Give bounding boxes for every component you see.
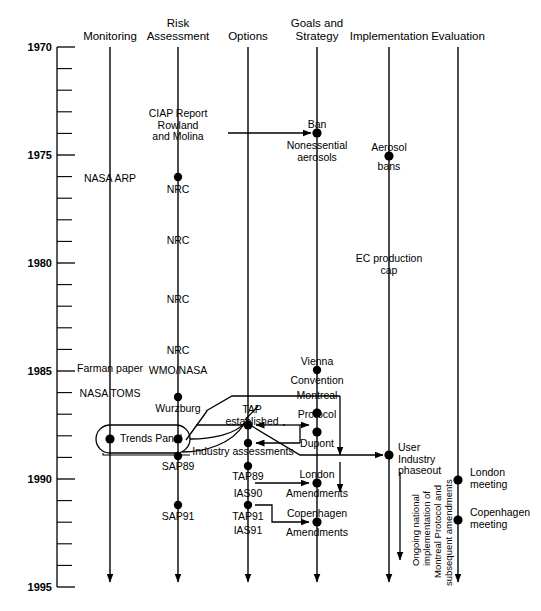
year-1970-text: 1970	[28, 41, 52, 53]
tap-line2: established	[225, 416, 278, 428]
year-label-1985: 1985	[4, 365, 52, 377]
diagram-canvas	[0, 0, 541, 611]
year-label-1970: 1970	[4, 41, 52, 53]
annotation-ongoing-line1: Ongoing national	[410, 494, 421, 566]
vienna-line1: Vienna	[290, 356, 343, 368]
nasa-arp-text: NASA ARP	[84, 172, 136, 184]
event-label-wmo-nasa: WMO/NASA	[149, 365, 207, 377]
column-header-goals-line1: Goals and	[291, 17, 343, 30]
montreal-line2: Protocol	[297, 409, 338, 421]
user-line3: phaseout	[398, 465, 441, 477]
event-label-wurzburg: Wurzburg	[155, 403, 200, 415]
event-label-farman-paper: Farman paper	[77, 363, 143, 375]
tap89-text: TAP89	[232, 470, 263, 482]
event-label-ciap-report: CIAP Report Rowland and Molina	[149, 108, 208, 143]
nonessential-line2: aerosols	[287, 152, 348, 164]
event-label-dupont: Dupont	[300, 438, 334, 450]
event-label-industry-assessments: Industry assessments	[192, 446, 294, 458]
montreal-line1: Montreal	[297, 390, 338, 402]
ec-line2: cap	[356, 265, 423, 277]
column-header-options: Options	[228, 30, 268, 43]
event-label-aerosol-bans: Aerosol bans	[371, 142, 407, 172]
column-header-implementation-label: Implementation	[350, 30, 429, 42]
london-am-line2: Amendments	[286, 488, 348, 500]
timeline-figure: Monitoring Risk Assessment Options Goals…	[0, 0, 541, 611]
event-label-nrc-3: NRC	[167, 294, 190, 306]
event-label-montreal-protocol: Montreal Protocol	[297, 390, 338, 420]
tap91-text: TAP91	[232, 510, 263, 522]
aerosol-line2: bans	[371, 161, 407, 173]
event-label-sap89: SAP89	[162, 461, 195, 473]
column-header-implementation: Implementation	[350, 30, 429, 43]
nrc-1-text: NRC	[167, 183, 190, 195]
year-1990-text: 1990	[28, 473, 52, 485]
trends-panel-text: Trends Panel	[120, 432, 182, 444]
event-label-vienna-convention: Vienna Convention	[290, 356, 343, 386]
year-label-1975: 1975	[4, 149, 52, 161]
year-label-1990: 1990	[4, 473, 52, 485]
nrc-4-text: NRC	[167, 344, 190, 356]
year-1975-text: 1975	[28, 149, 52, 161]
dot-sap89	[174, 452, 182, 460]
event-label-nrc-1: NRC	[167, 184, 190, 196]
column-header-options-label: Options	[228, 30, 268, 42]
wurzburg-text: Wurzburg	[155, 402, 200, 414]
year-label-1995: 1995	[4, 581, 52, 593]
copen-mtg-line1: Copenhagen	[470, 507, 530, 519]
vienna-line2: Convention	[290, 375, 343, 387]
dot-tap89	[244, 462, 252, 470]
aerosol-line1: Aerosol	[371, 142, 407, 154]
event-label-ias91: IAS91	[234, 525, 263, 537]
event-label-copenhagen-amendments: Copenhagen Amendments	[286, 508, 348, 538]
ciap-line1: CIAP Report	[149, 108, 208, 120]
wmo-nasa-text: WMO/NASA	[149, 364, 207, 376]
tap-line1: TAP	[225, 404, 278, 416]
event-label-nonessential-aerosols: Nonessential aerosols	[287, 140, 348, 163]
copen-mtg-line2: meeting	[470, 519, 530, 531]
column-header-evaluation-label: Evaluation	[431, 30, 485, 42]
ec-line1: EC production	[356, 253, 423, 265]
ias90-text: IAS90	[234, 487, 263, 499]
dot-nrc74	[174, 173, 182, 181]
london-am-line1: London	[286, 469, 348, 481]
event-label-ec-production-cap: EC production cap	[356, 253, 423, 276]
event-label-nasa-arp: NASA ARP	[84, 173, 136, 185]
event-label-trends-panel: Trends Panel	[120, 433, 182, 445]
ias91-text: IAS91	[234, 524, 263, 536]
nasa-toms-text: NASA TOMS	[80, 387, 141, 399]
nonessential-line1: Nonessential	[287, 140, 348, 152]
year-1985-text: 1985	[28, 365, 52, 377]
column-header-goals-strategy: Goals and Strategy	[291, 17, 343, 42]
event-label-tap89: TAP89	[232, 471, 263, 483]
column-header-monitoring: Monitoring	[83, 30, 137, 43]
ciap-line3: and Molina	[149, 131, 208, 143]
ban-text: Ban	[308, 118, 327, 130]
dot-sap91	[174, 501, 182, 509]
sap89-text: SAP89	[162, 460, 195, 472]
event-label-london-amendments: London Amendments	[286, 469, 348, 499]
column-header-evaluation: Evaluation	[431, 30, 485, 43]
dot-wurzburg	[174, 393, 182, 401]
year-1980-text: 1980	[28, 257, 52, 269]
annotation-ongoing-line3: Montreal Protocol and	[432, 485, 443, 578]
event-label-sap91: SAP91	[162, 511, 195, 523]
annotation-ongoing-line2: implementation of	[421, 491, 432, 566]
dot-dupont	[312, 427, 321, 436]
column-header-goals-line2: Strategy	[291, 30, 343, 43]
event-label-ban: Ban	[308, 119, 327, 131]
copen-am-line2: Amendments	[286, 527, 348, 539]
dot-london-meeting	[453, 475, 462, 484]
dupont-text: Dupont	[300, 437, 334, 449]
dot-trends-left	[105, 434, 114, 443]
sap91-text: SAP91	[162, 510, 195, 522]
event-label-nrc-2: NRC	[167, 235, 190, 247]
event-label-london-meeting: London meeting	[470, 467, 507, 490]
event-label-nasa-toms: NASA TOMS	[80, 388, 141, 400]
event-label-nrc-4: NRC	[167, 345, 190, 357]
london-mtg-line2: meeting	[470, 479, 507, 491]
column-header-risk-line2: Assessment	[147, 30, 210, 43]
year-axis	[57, 47, 75, 587]
dot-copenhagen-meeting	[453, 515, 462, 524]
column-header-risk-line1: Risk	[147, 17, 210, 30]
event-label-ias90: IAS90	[234, 488, 263, 500]
